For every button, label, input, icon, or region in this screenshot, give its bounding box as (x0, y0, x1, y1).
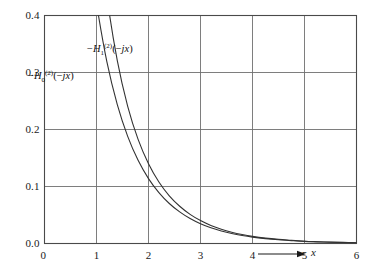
curve-series-0 (60, 0, 356, 243)
origin-label: 0 (41, 249, 47, 261)
x-tick-label: 2 (139, 249, 159, 261)
x-tick-label: 4 (243, 249, 263, 261)
y-tick-label: 0.1 (25, 180, 39, 192)
curve-series-1 (60, 0, 356, 243)
x-tick-label: 6 (347, 249, 367, 261)
label-h1: −H1(2)(−jx) (87, 43, 133, 54)
y-tick-label: 0.4 (25, 9, 39, 21)
y-tick-label: 0.2 (25, 123, 39, 135)
chart-figure: 0.00.10.20.30.4 0123456 −H1(2)(−jx)−H0(2… (0, 0, 371, 272)
x-tick-label: 1 (87, 249, 107, 261)
x-axis-title: x (311, 246, 316, 258)
label-h0: −H0(2)(−jx) (28, 70, 74, 81)
data-curves (60, 0, 356, 243)
x-tick-label: 3 (191, 249, 211, 261)
y-tick-label: 0.0 (25, 237, 39, 249)
plot-canvas (0, 0, 371, 272)
